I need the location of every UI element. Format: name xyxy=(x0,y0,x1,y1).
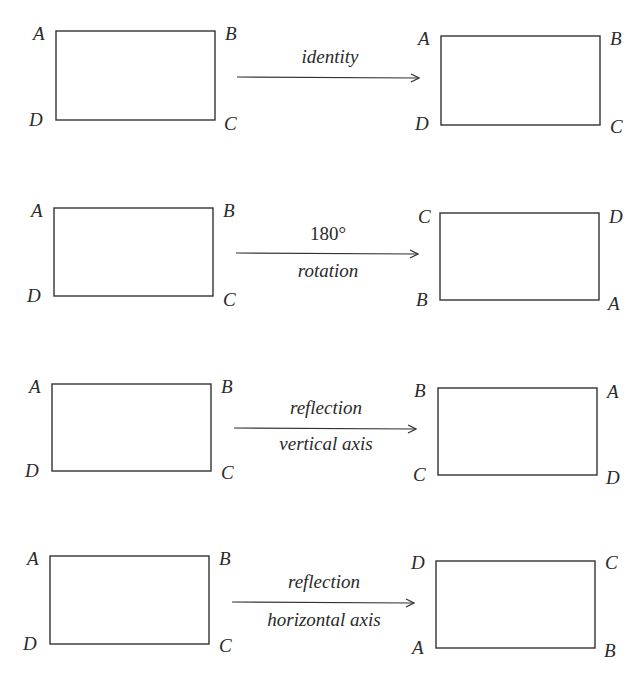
vertex-label: D xyxy=(608,206,623,227)
transformed-rectangle xyxy=(438,388,597,475)
vertex-label: B xyxy=(221,376,233,397)
transform-sublabel: horizontal axis xyxy=(267,609,380,630)
transformed-rectangle xyxy=(440,213,599,300)
vertex-label: A xyxy=(29,200,43,221)
transform-sublabel: vertical axis xyxy=(279,433,372,454)
original-rectangle xyxy=(54,208,213,296)
vertex-label: C xyxy=(221,462,234,483)
original-rectangle xyxy=(52,384,211,471)
vertex-label: A xyxy=(410,637,424,658)
symmetries-diagram: A B D C identity A B D C A B D C 180° ro… xyxy=(0,0,643,679)
vertex-label: C xyxy=(223,289,236,310)
vertex-label: D xyxy=(414,113,429,134)
transform-label: identity xyxy=(302,46,360,67)
vertex-label: B xyxy=(604,640,616,661)
arrow-icon xyxy=(232,602,414,603)
row-reflection-horizontal: A B D C reflection horizontal axis D C A… xyxy=(22,548,618,661)
row-rotation-180: A B D C 180° rotation C D B A xyxy=(26,200,623,314)
vertex-label: A xyxy=(605,381,619,402)
vertex-label: D xyxy=(605,467,620,488)
vertex-label: A xyxy=(27,376,41,397)
original-rectangle xyxy=(50,556,209,644)
vertex-label: D xyxy=(26,285,41,306)
vertex-label: D xyxy=(24,460,39,481)
vertex-label: A xyxy=(25,548,39,569)
original-rectangle xyxy=(56,31,215,120)
transform-sublabel: rotation xyxy=(298,260,359,281)
vertex-label: B xyxy=(416,289,428,310)
vertex-label: C xyxy=(610,116,623,137)
arrow-icon xyxy=(237,77,419,78)
vertex-label: B xyxy=(225,23,237,44)
vertex-label: C xyxy=(224,113,237,134)
vertex-label: B xyxy=(223,200,235,221)
vertex-label: B xyxy=(219,548,231,569)
row-identity: A B D C identity A B D C xyxy=(28,23,623,137)
transform-label: reflection xyxy=(288,571,360,592)
vertex-label: C xyxy=(605,552,618,573)
row-reflection-vertical: A B D C reflection vertical axis B A C D xyxy=(24,376,620,488)
vertex-label: D xyxy=(28,109,43,130)
vertex-label: D xyxy=(22,633,37,654)
vertex-label: A xyxy=(606,293,620,314)
vertex-label: A xyxy=(416,28,430,49)
transformed-rectangle xyxy=(441,36,600,125)
transform-label: 180° xyxy=(310,223,346,244)
vertex-label: C xyxy=(418,206,431,227)
vertex-label: B xyxy=(414,380,426,401)
vertex-label: D xyxy=(410,552,425,573)
vertex-label: C xyxy=(413,464,426,485)
transform-label: reflection xyxy=(290,397,362,418)
transformed-rectangle xyxy=(436,561,595,648)
arrow-icon xyxy=(234,428,416,429)
vertex-label: B xyxy=(610,28,622,49)
vertex-label: A xyxy=(31,23,45,44)
vertex-label: C xyxy=(219,635,232,656)
arrow-icon xyxy=(236,253,418,254)
